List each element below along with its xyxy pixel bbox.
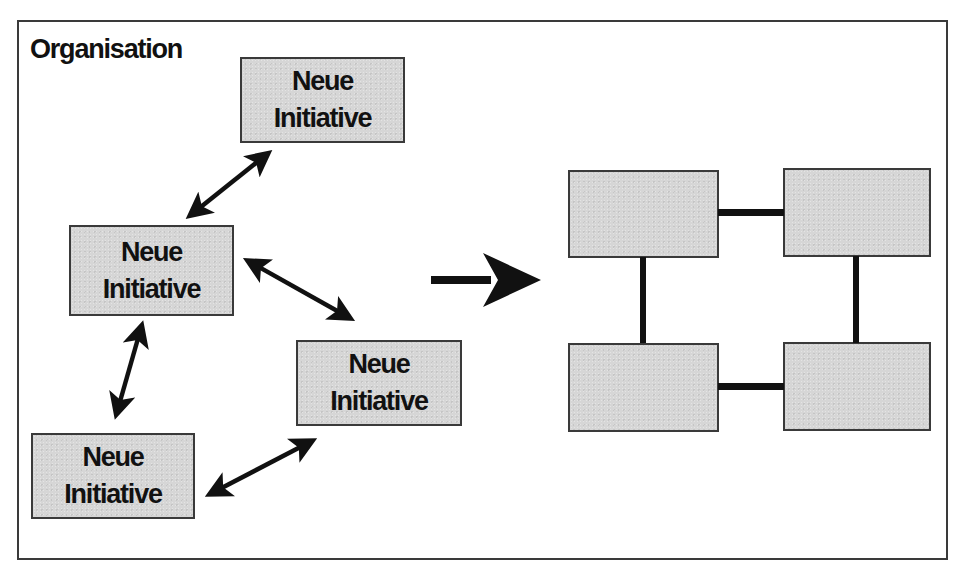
connector-layer	[0, 0, 964, 577]
double-arrow-icon	[192, 155, 266, 214]
double-arrow-icon	[212, 442, 310, 493]
double-arrow-icon	[117, 328, 141, 412]
double-arrow-icon	[250, 262, 348, 317]
connector-top	[718, 209, 784, 216]
connector-left	[640, 257, 646, 343]
connector-bottom	[718, 383, 784, 390]
connector-right	[853, 256, 859, 343]
right-arrow-icon	[431, 253, 541, 307]
